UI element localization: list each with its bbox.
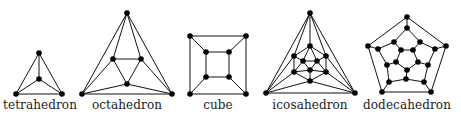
vertex-dot <box>404 67 410 73</box>
label-octahedron: octahedron <box>92 98 162 112</box>
graph-octahedron <box>79 10 175 97</box>
edge <box>127 84 172 94</box>
vertex-dot <box>36 76 42 82</box>
vertex-dot <box>443 43 449 49</box>
vertex-dot <box>386 79 392 85</box>
vertex-dot <box>203 49 209 55</box>
label-icosahedron: icosahedron <box>272 98 347 112</box>
vertex-dot <box>307 10 313 16</box>
vertex-dot <box>393 59 399 65</box>
edge <box>39 53 62 94</box>
edge <box>310 13 326 56</box>
vertex-dot <box>124 81 130 87</box>
vertex-dot <box>432 46 438 52</box>
edge <box>127 13 141 59</box>
vertex-dot <box>291 53 297 59</box>
vertex-dot <box>307 43 313 49</box>
platonic-graphs-figure: tetrahedron octahedron cube icosahedron … <box>0 0 461 119</box>
edge <box>229 77 246 94</box>
vertex-dot <box>203 74 209 80</box>
edge <box>229 36 246 52</box>
vertex-dot <box>187 91 193 97</box>
edge <box>82 13 127 94</box>
edge <box>82 59 113 94</box>
vertex-dot <box>169 91 175 97</box>
vertex-dot <box>404 14 410 20</box>
edge <box>190 77 206 94</box>
edge <box>113 13 127 59</box>
vertex-dot <box>243 33 249 39</box>
edge <box>310 13 355 93</box>
vertex-dot <box>398 47 404 53</box>
vertex-dot <box>300 58 306 64</box>
vertex-dot <box>323 69 329 75</box>
label-tetrahedron: tetrahedron <box>3 98 77 112</box>
vertex-dot <box>13 91 19 97</box>
edge <box>82 84 127 94</box>
vertex-dot <box>187 33 193 39</box>
vertex-dot <box>263 90 269 96</box>
vertex-dot <box>138 56 144 62</box>
graph-tetrahedron <box>13 50 65 97</box>
edge <box>266 13 310 93</box>
vertex-dot <box>243 91 249 97</box>
vertex-dot <box>425 62 431 68</box>
vertex-dot <box>365 43 371 49</box>
edge <box>141 59 172 94</box>
vertex-dot <box>391 39 397 45</box>
edge <box>127 13 172 94</box>
graph-icosahedron <box>263 10 358 96</box>
edge <box>190 36 206 52</box>
vertex-dot <box>59 91 65 97</box>
vertex-dot <box>307 67 313 73</box>
edge <box>368 17 407 46</box>
vertex-dot <box>410 47 416 53</box>
edge <box>113 59 127 84</box>
label-dodecahedron: dodecahedron <box>363 98 451 112</box>
vertex-dot <box>110 56 116 62</box>
vertex-dot <box>403 76 409 82</box>
edge <box>266 81 310 93</box>
vertex-dot <box>428 89 434 95</box>
vertex-dot <box>404 25 410 31</box>
label-cube: cube <box>203 98 233 112</box>
edge <box>16 79 39 94</box>
vertex-dot <box>415 59 421 65</box>
vertex-dot <box>226 74 232 80</box>
vertex-dot <box>291 69 297 75</box>
vertex-dot <box>314 58 320 64</box>
edge <box>407 28 420 42</box>
edge <box>39 79 62 94</box>
vertex-dot <box>226 49 232 55</box>
vertex-dot <box>384 62 390 68</box>
vertex-dot <box>417 39 423 45</box>
vertex-dot <box>307 78 313 84</box>
vertex-dot <box>323 53 329 59</box>
graph-cube <box>187 33 249 97</box>
edge <box>310 81 355 93</box>
vertex-dot <box>421 79 427 85</box>
vertex-dot <box>375 46 381 52</box>
edge <box>394 28 407 42</box>
vertex-dot <box>79 91 85 97</box>
edge <box>326 56 355 93</box>
vertex-dot <box>36 50 42 56</box>
graph-dodecahedron <box>365 14 449 95</box>
edge <box>266 56 294 93</box>
vertex-dot <box>352 90 358 96</box>
edge <box>294 13 310 56</box>
edge <box>16 53 39 94</box>
edge <box>407 17 446 46</box>
vertex-dot <box>379 89 385 95</box>
vertex-dot <box>124 10 130 16</box>
edge <box>127 59 141 84</box>
